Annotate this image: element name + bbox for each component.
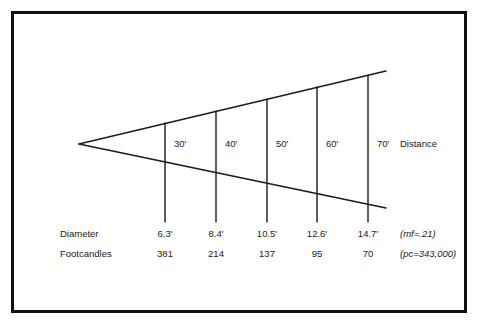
distance-tick-label-30: 30' bbox=[174, 139, 186, 149]
distance-axis-caption: Distance bbox=[400, 139, 437, 149]
diagram-page: 30' 40' 50' 60' 70' Distance Diameter 6.… bbox=[0, 0, 483, 324]
diameter-value-60: 12.6' bbox=[307, 229, 327, 239]
diameter-value-30: 6.3' bbox=[157, 229, 172, 239]
distance-tick-label-70: 70' bbox=[377, 139, 389, 149]
cone-lower-edge bbox=[79, 144, 386, 208]
diameter-value-70: 14.7' bbox=[358, 229, 378, 239]
footcandles-value-70: 70 bbox=[363, 249, 374, 259]
footcandles-row-label: Footcandles bbox=[60, 249, 112, 259]
pc-annotation: (pc=343,000) bbox=[400, 249, 456, 259]
footcandles-value-50: 137 bbox=[259, 249, 275, 259]
distance-tick-label-60: 60' bbox=[326, 139, 338, 149]
diameter-value-40: 8.4' bbox=[208, 229, 223, 239]
distance-tick-label-50: 50' bbox=[276, 139, 288, 149]
beam-cone-drawing bbox=[0, 0, 483, 324]
diameter-value-50: 10.5' bbox=[257, 229, 277, 239]
footcandles-value-30: 381 bbox=[157, 249, 173, 259]
footcandles-value-60: 95 bbox=[312, 249, 323, 259]
distance-tick-label-40: 40' bbox=[225, 139, 237, 149]
mf-annotation: (mf=.21) bbox=[400, 229, 436, 239]
diameter-row-label: Diameter bbox=[60, 229, 99, 239]
cone-upper-edge bbox=[79, 71, 386, 144]
footcandles-value-40: 214 bbox=[208, 249, 224, 259]
